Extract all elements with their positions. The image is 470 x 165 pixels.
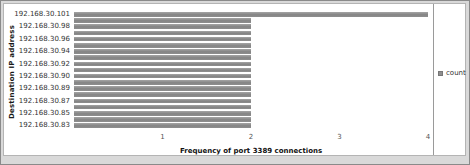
- bar-row: [74, 117, 428, 122]
- category-label: 192.168.30.83: [19, 122, 70, 128]
- x-axis-title: Frequency of port 3389 connections: [74, 147, 428, 155]
- bar-row: 192.168.30.90: [74, 74, 428, 79]
- category-label: 192.168.30.92: [19, 61, 70, 67]
- x-tick-label: 4: [426, 133, 430, 142]
- x-axis-ticks: 1234: [74, 133, 428, 142]
- chart-widget: Destination IP address 192.168.30.101192…: [3, 3, 466, 156]
- bar-row: [74, 68, 428, 73]
- bar[interactable]: [74, 18, 251, 23]
- bar[interactable]: [74, 92, 251, 97]
- bar-row: [74, 43, 428, 48]
- plot-right-border: [433, 4, 434, 155]
- bar-row: [74, 55, 428, 60]
- bar[interactable]: [74, 43, 251, 48]
- category-label: 192.168.30.87: [19, 98, 70, 104]
- legend-swatch-icon: [438, 71, 443, 76]
- bar[interactable]: [74, 62, 251, 67]
- bar-row: 192.168.30.98: [74, 24, 428, 29]
- category-label: 192.168.30.101: [14, 11, 70, 17]
- bar[interactable]: [74, 111, 251, 116]
- y-axis-title: Destination IP address: [6, 8, 17, 136]
- bar-row: 192.168.30.83: [74, 123, 428, 128]
- category-label: 192.168.30.85: [19, 110, 70, 116]
- bar-row: 192.168.30.94: [74, 49, 428, 54]
- category-label: 192.168.30.96: [19, 36, 70, 42]
- bar[interactable]: [74, 123, 251, 128]
- bar-row: 192.168.30.85: [74, 111, 428, 116]
- bar-row: [74, 31, 428, 36]
- bar[interactable]: [74, 99, 251, 104]
- x-tick-label: 1: [160, 133, 164, 142]
- bar-row: 192.168.30.87: [74, 99, 428, 104]
- plot-area: 192.168.30.101192.168.30.98192.168.30.96…: [74, 12, 428, 130]
- legend[interactable]: count: [438, 70, 466, 77]
- bar[interactable]: [74, 24, 251, 29]
- category-label: 192.168.30.89: [19, 85, 70, 91]
- bar[interactable]: [74, 12, 428, 17]
- x-tick-label: 3: [337, 133, 341, 142]
- bar-row: 192.168.30.96: [74, 37, 428, 42]
- bar-row: 192.168.30.92: [74, 62, 428, 67]
- bar[interactable]: [74, 117, 251, 122]
- bar[interactable]: [74, 68, 251, 73]
- bar-row: [74, 80, 428, 85]
- bar-row: [74, 92, 428, 97]
- bar[interactable]: [74, 55, 251, 60]
- screenshot-root: { "chart_data": { "type": "bar", "orient…: [0, 0, 470, 165]
- bar[interactable]: [74, 31, 251, 36]
- bar-row: 192.168.30.89: [74, 86, 428, 91]
- bar-row: [74, 105, 428, 110]
- category-label: 192.168.30.98: [19, 23, 70, 29]
- bar[interactable]: [74, 74, 251, 79]
- bar-row: [74, 18, 428, 23]
- category-label: 192.168.30.90: [19, 73, 70, 79]
- bar-row: 192.168.30.101: [74, 12, 428, 17]
- legend-label: count: [446, 70, 466, 77]
- bar[interactable]: [74, 80, 251, 85]
- bar[interactable]: [74, 86, 251, 91]
- category-label: 192.168.30.94: [19, 48, 70, 54]
- bar[interactable]: [74, 105, 251, 110]
- bar[interactable]: [74, 49, 251, 54]
- x-tick-label: 2: [249, 133, 253, 142]
- bar[interactable]: [74, 37, 251, 42]
